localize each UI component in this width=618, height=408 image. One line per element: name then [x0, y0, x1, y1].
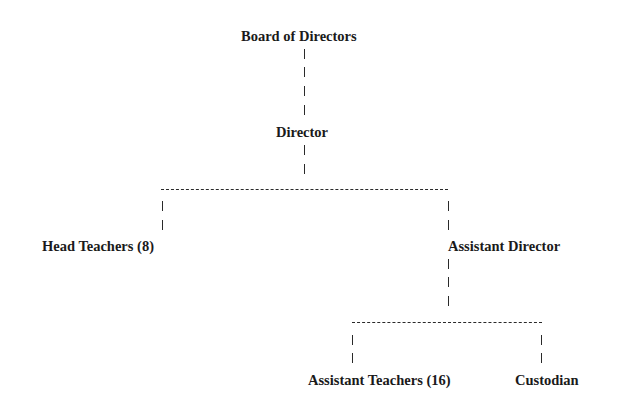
connector-pipe [162, 201, 163, 211]
connector-dashed-line-level2 [352, 322, 542, 323]
connector-pipe [448, 296, 449, 306]
connector-pipe [304, 164, 305, 174]
node-board-of-directors: Board of Directors [241, 28, 357, 44]
node-head-teachers: Head Teachers (8) [42, 238, 154, 254]
connector-pipe [304, 105, 305, 115]
connector-pipe [162, 220, 163, 230]
node-assistant-teachers: Assistant Teachers (16) [308, 372, 451, 388]
node-director: Director [276, 124, 328, 140]
connector-pipe [541, 335, 542, 345]
connector-pipe [304, 145, 305, 155]
connector-pipe [304, 49, 305, 59]
node-assistant-director: Assistant Director [448, 238, 560, 254]
connector-pipe [448, 259, 449, 269]
connector-dashed-line-level1 [161, 189, 448, 190]
connector-pipe [448, 220, 449, 230]
connector-pipe [448, 277, 449, 287]
connector-pipe [304, 67, 305, 77]
connector-pipe [304, 86, 305, 96]
connector-pipe [541, 353, 542, 363]
node-custodian: Custodian [515, 372, 579, 388]
connector-pipe [352, 353, 353, 363]
connector-pipe [448, 201, 449, 211]
connector-pipe [352, 335, 353, 345]
